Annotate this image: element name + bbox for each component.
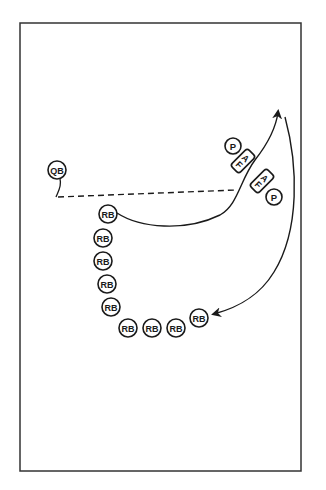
rb-label: RB [193,314,206,324]
rb-4: RB [102,298,120,316]
rb-label: RB [170,324,183,334]
passer-bottom-label: P [271,192,278,203]
rb-0: RB [99,205,117,223]
passer-top: P [225,138,241,154]
drill-diagram: QB P A F A F P RB RB RB RB [0,0,326,490]
rb-1: RB [94,229,112,247]
rb-7: RB [167,319,185,337]
rb-label: RB [102,210,115,220]
qb-player: QB [48,161,66,179]
rb-label: RB [101,280,114,290]
qb-label: QB [50,166,64,176]
rb-8: RB [190,309,208,327]
rb-label: RB [122,324,135,334]
rb-label: RB [97,234,110,244]
rb-5: RB [119,319,137,337]
field-border [20,23,301,471]
rb-6: RB [143,319,161,337]
rb-label: RB [146,324,159,334]
passer-bottom: P [266,189,282,205]
rb-2: RB [94,252,112,270]
rb-label: RB [105,303,118,313]
rb-3: RB [98,275,116,293]
rb-label: RB [97,257,110,267]
passer-top-label: P [230,141,237,152]
